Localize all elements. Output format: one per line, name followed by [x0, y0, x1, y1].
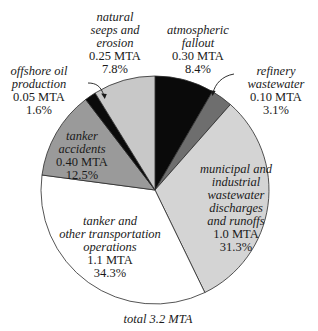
label-offshore-oil: offshore oil production 0.05 MTA 1.6% — [2, 65, 76, 117]
label-municipal-industrial: municipal and industrial wastewater disc… — [188, 163, 284, 254]
total-label: total 3.2 MTA — [100, 313, 216, 326]
label-natural-seeps: natural seeps and erosion 0.25 MTA 7.8% — [78, 11, 152, 76]
label-tanker-transportation: tanker and other transportation operatio… — [50, 215, 170, 280]
label-refinery-wastewater: refinery wastewater 0.10 MTA 3.1% — [238, 65, 314, 117]
refinery-leader-arrow — [213, 74, 234, 93]
label-tanker-accidents: tanker accidents 0.40 MTA 12.5% — [50, 130, 114, 182]
label-atmospheric-fallout: atmospheric fallout 0.30 MTA 8.4% — [150, 24, 246, 76]
